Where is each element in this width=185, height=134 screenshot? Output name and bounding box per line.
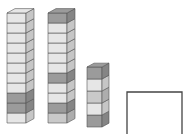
cube-front-face [7, 53, 26, 63]
cube-front-face [48, 23, 67, 33]
stacks-group [7, 9, 109, 127]
cube-front-face [7, 33, 26, 43]
cube-front-face [48, 73, 67, 83]
cube-front-face [7, 13, 26, 23]
cube [48, 9, 75, 23]
cube-front-face [7, 63, 26, 73]
cube-front-face [87, 67, 102, 79]
stack-1 [7, 9, 34, 123]
cube-front-face [48, 113, 67, 123]
cube-front-face [7, 43, 26, 53]
stack-2 [48, 9, 75, 123]
cube-front-face [7, 103, 26, 113]
cube-front-face [48, 63, 67, 73]
cube-front-face [48, 93, 67, 103]
cube-front-face [48, 83, 67, 93]
cube-front-face [48, 53, 67, 63]
cube-front-face [87, 103, 102, 115]
cube [7, 9, 34, 23]
cube-front-face [7, 83, 26, 93]
cube-stacks-diagram [0, 0, 185, 134]
cube-front-face [87, 79, 102, 91]
cube [87, 63, 109, 79]
cube-front-face [7, 113, 26, 123]
stack-3 [87, 63, 109, 127]
cube-front-face [7, 23, 26, 33]
cube-front-face [7, 93, 26, 103]
cube-front-face [48, 13, 67, 23]
cube-front-face [87, 91, 102, 103]
cube-front-face [48, 43, 67, 53]
cube-front-face [87, 115, 102, 127]
empty-box [127, 92, 182, 134]
cube-front-face [48, 33, 67, 43]
cube-front-face [7, 73, 26, 83]
cube-front-face [48, 103, 67, 113]
